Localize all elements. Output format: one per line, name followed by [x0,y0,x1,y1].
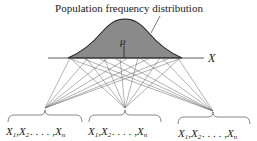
brace-sample-1 [8,110,82,122]
title-pointer-line [151,16,160,33]
sample-2-label: X1,X2. . . . ,Xn [87,125,148,139]
svg-text:X1,X2. . . . ,Xn: X1,X2. . . . ,Xn [5,125,66,139]
svg-text:X1,X2. . . . ,Xn: X1,X2. . . . ,Xn [87,125,148,139]
sampling-lines [45,58,213,111]
sample-1-label: X1,X2. . . . ,Xn [5,125,66,139]
brace-sample-3 [178,112,250,124]
mean-label: μ [119,35,126,47]
brace-sample-2 [89,110,161,122]
sampling-diagram: Population frequency distribution μ X [0,0,257,141]
x-axis-label: X [207,51,216,65]
sample-braces [8,110,250,124]
svg-text:X1,X2. . . . ,Xn: X1,X2. . . . ,Xn [177,127,238,141]
sample-3-label: X1,X2. . . . ,Xn [177,127,238,141]
diagram-title: Population frequency distribution [55,2,203,14]
